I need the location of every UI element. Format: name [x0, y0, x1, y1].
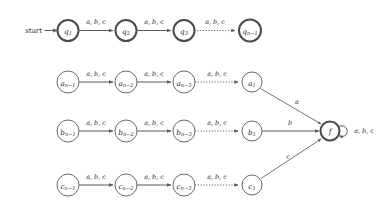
state-f-accepting[interactable]: f — [321, 122, 340, 141]
state-q2[interactable]: q2 — [116, 20, 137, 41]
edge-label-b-n-1-b-n-2: a, b, c — [86, 119, 106, 127]
row-c-chain: cn−1 a, b, c cn−2 a, b, c cn−3 a, b, c c… — [57, 139, 321, 196]
edge-label-c-n-2-c-n-3: a, b, c — [144, 173, 164, 181]
edge-label-q1-q2: a, b, c — [86, 18, 106, 26]
state-b-n-1[interactable]: bn−1 — [57, 120, 79, 142]
start-label: start — [25, 27, 42, 35]
state-b1[interactable]: b1 — [242, 121, 262, 141]
state-c-n-3[interactable]: cn−3 — [173, 174, 195, 196]
edge-label-a-n-3-a1: a, b, c — [207, 70, 227, 78]
automaton-diagram: start q1 a, b, c q2 a, b, c q3 a, b, c q… — [0, 0, 390, 216]
state-q1[interactable]: q1 — [58, 20, 79, 41]
state-a1[interactable]: a1 — [242, 72, 262, 92]
edge-label-b-n-2-b-n-3: a, b, c — [144, 119, 164, 127]
state-a-n-2[interactable]: an−2 — [115, 71, 137, 93]
row-q-chain: start q1 a, b, c q2 a, b, c q3 a, b, c q… — [25, 18, 261, 42]
state-a-n-3[interactable]: an−3 — [173, 71, 195, 93]
state-a-n-1[interactable]: an−1 — [57, 71, 79, 93]
row-b-chain: bn−1 a, b, c bn−2 a, b, c bn−3 a, b, c b… — [57, 119, 319, 142]
edge-label-a-n-2-a-n-3: a, b, c — [144, 70, 164, 78]
state-q3[interactable]: q3 — [174, 20, 195, 41]
edge-label-q3-qn1: a, b, c — [205, 18, 225, 26]
state-b-n-2[interactable]: bn−2 — [115, 120, 137, 142]
edge-label-a1-f: a — [295, 98, 299, 106]
edge-label-q2-q3: a, b, c — [144, 18, 164, 26]
state-c-n-1[interactable]: cn−1 — [57, 174, 79, 196]
edge-label-c-n-3-c1: a, b, c — [207, 173, 227, 181]
edge-label-b1-f: b — [288, 119, 292, 127]
self-loop-label-f: a, b, c — [354, 127, 374, 135]
edge-label-c1-f: c — [286, 153, 290, 161]
state-qn-1[interactable]: qn−1 — [239, 20, 261, 42]
edge-label-b-n-3-b1: a, b, c — [207, 119, 227, 127]
edge-label-a-n-1-a-n-2: a, b, c — [86, 70, 106, 78]
state-c-n-2[interactable]: cn−2 — [115, 174, 137, 196]
edge-label-c-n-1-c-n-2: a, b, c — [86, 173, 106, 181]
edge-c1-f — [261, 139, 321, 179]
state-b-n-3[interactable]: bn−3 — [173, 120, 195, 142]
state-c1[interactable]: c1 — [242, 175, 262, 195]
row-a-chain: an−1 a, b, c an−2 a, b, c an−3 a, b, c a… — [57, 70, 321, 124]
